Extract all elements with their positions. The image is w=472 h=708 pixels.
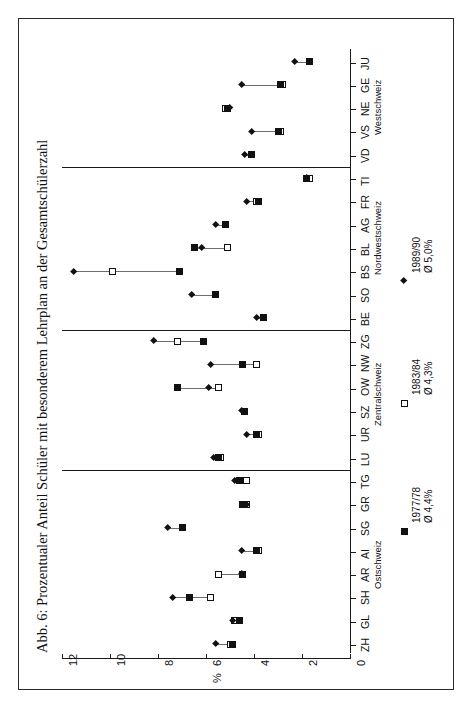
category-axis-tick bbox=[351, 202, 356, 203]
category-axis-tick bbox=[351, 645, 356, 646]
category-label: ZH bbox=[359, 638, 371, 652]
category-axis-tick bbox=[351, 598, 356, 599]
data-point-1983-84-BL bbox=[224, 244, 231, 251]
category-label: UR bbox=[359, 427, 371, 442]
category-label: FR bbox=[359, 195, 371, 209]
data-point-1977-78-UR bbox=[253, 431, 260, 438]
category-axis-tick bbox=[351, 319, 356, 320]
category-axis-tick bbox=[351, 482, 356, 483]
data-point-1977-78-VS bbox=[275, 128, 282, 135]
category-axis-tick bbox=[351, 179, 356, 180]
data-point-1989-90-BL bbox=[197, 244, 205, 252]
legend-marker-1983-84 bbox=[401, 400, 408, 407]
category-axis-tick bbox=[351, 132, 356, 133]
data-point-1989-90-SG bbox=[164, 524, 172, 532]
data-point-1977-78-JU bbox=[306, 58, 313, 65]
data-point-1977-78-VD bbox=[248, 151, 255, 158]
data-point-1977-78-AG bbox=[222, 221, 229, 228]
category-label: SO bbox=[359, 287, 371, 302]
category-label: TG bbox=[359, 474, 371, 489]
value-axis-tick-label: 8 bbox=[163, 660, 175, 666]
category-label: SH bbox=[359, 591, 371, 606]
category-axis-tick bbox=[351, 552, 356, 553]
data-point-1989-90-UR bbox=[243, 430, 251, 438]
category-axis-tick bbox=[351, 249, 356, 250]
data-point-1989-90-VS bbox=[248, 128, 256, 136]
data-point-1989-90-BE bbox=[253, 314, 261, 322]
value-axis-tick bbox=[254, 654, 255, 659]
data-point-1983-84-AR bbox=[215, 571, 222, 578]
legend-mean-1983-84: Ø 4,3% bbox=[423, 362, 434, 395]
data-point-1977-78-NW bbox=[239, 361, 246, 368]
category-axis-tick bbox=[351, 342, 356, 343]
category-label: AI bbox=[359, 549, 371, 559]
value-axis-tick-label: 6 bbox=[211, 660, 223, 666]
data-point-1977-78-FR bbox=[255, 198, 262, 205]
data-point-1977-78-ZH bbox=[229, 641, 236, 648]
category-label: JU bbox=[359, 57, 371, 70]
category-label: BS bbox=[359, 265, 371, 279]
data-point-1989-90-GE bbox=[238, 81, 246, 89]
category-axis-tick bbox=[351, 156, 356, 157]
data-point-1977-78-OW bbox=[174, 384, 181, 391]
category-label: OW bbox=[359, 378, 371, 396]
category-label: SG bbox=[359, 520, 371, 535]
category-label: LU bbox=[359, 452, 371, 465]
value-axis-tick-label: 4 bbox=[259, 660, 271, 666]
data-point-1977-78-GE bbox=[277, 81, 284, 88]
category-axis-tick bbox=[351, 226, 356, 227]
data-point-1989-90-AG bbox=[212, 221, 220, 229]
data-point-1977-78-GL bbox=[236, 617, 243, 624]
data-point-1977-78-BE bbox=[260, 314, 267, 321]
category-label: AG bbox=[359, 217, 371, 232]
figure-page: Abb. 6: Prozentualer Anteil Schüler mit … bbox=[0, 0, 472, 708]
series-connector bbox=[211, 364, 257, 365]
category-label: BL bbox=[359, 243, 371, 256]
data-point-1977-78-ZG bbox=[200, 338, 207, 345]
data-point-1977-78-SO bbox=[212, 291, 219, 298]
series-connector bbox=[74, 271, 180, 272]
group-separator bbox=[62, 167, 350, 168]
category-label: GE bbox=[359, 78, 371, 93]
data-point-1977-78-BL bbox=[191, 244, 198, 251]
data-point-1989-90-BS bbox=[70, 267, 78, 275]
category-axis-tick bbox=[351, 459, 356, 460]
chart-plot-area: 024681012%ZHGLSHARAISGGRTGLUURSZOWNWZGBE… bbox=[0, 0, 472, 708]
data-point-1983-84-SH bbox=[207, 594, 214, 601]
data-point-1989-90-ZG bbox=[149, 337, 157, 345]
group-separator bbox=[62, 470, 350, 471]
category-label: ZG bbox=[359, 335, 371, 350]
data-point-1983-84-NW bbox=[253, 361, 260, 368]
data-point-1989-90-VD bbox=[241, 151, 249, 159]
category-axis-line bbox=[350, 49, 351, 654]
value-axis-tick bbox=[206, 654, 207, 659]
category-label: TI bbox=[359, 177, 371, 186]
category-label: VD bbox=[359, 148, 371, 163]
legend-period-1977-78: 1977/78 bbox=[411, 487, 422, 523]
data-point-1989-90-FR bbox=[243, 197, 251, 205]
category-axis-tick bbox=[351, 529, 356, 530]
value-axis-tick bbox=[350, 654, 351, 659]
value-axis-tick bbox=[62, 654, 63, 659]
legend-mean-1989-90: Ø 5,0% bbox=[423, 240, 434, 273]
data-point-1989-90-OW bbox=[205, 384, 213, 392]
data-point-1989-90-ZH bbox=[212, 640, 220, 648]
value-axis-tick-label: 10 bbox=[115, 654, 127, 666]
category-label: GL bbox=[359, 615, 371, 629]
category-axis-tick bbox=[351, 272, 356, 273]
value-axis-title: % bbox=[211, 673, 223, 683]
category-axis-tick bbox=[351, 296, 356, 297]
category-axis-tick bbox=[351, 435, 356, 436]
category-axis-tick bbox=[351, 622, 356, 623]
category-axis-tick bbox=[351, 109, 356, 110]
legend-marker-1977-78 bbox=[401, 528, 408, 535]
category-axis-tick bbox=[351, 365, 356, 366]
data-point-1989-90-NW bbox=[207, 361, 215, 369]
category-axis-tick bbox=[351, 63, 356, 64]
data-point-1983-84-BS bbox=[109, 268, 116, 275]
category-label: VS bbox=[359, 125, 371, 139]
value-axis-tick bbox=[158, 654, 159, 659]
category-axis-tick bbox=[351, 505, 356, 506]
data-point-1977-78-SH bbox=[186, 594, 193, 601]
data-point-1977-78-AI bbox=[253, 547, 260, 554]
